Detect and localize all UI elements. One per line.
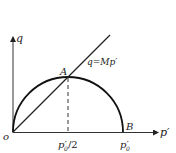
tick-half-label: p′ 0 /2 [58, 139, 78, 152]
point-a-label: A [59, 66, 67, 77]
origin-label: o [3, 131, 9, 142]
y-axis-label: q [16, 32, 23, 45]
svg-text:/2: /2 [68, 139, 78, 150]
line-label: q=Mp′ [87, 57, 117, 67]
yield-surface-diagram: q p′ o q=Mp′ A B p′ 0 /2 p′ 0 [0, 0, 176, 153]
point-b-label: B [125, 121, 133, 132]
x-axis-label: p′ [160, 126, 170, 139]
svg-text:0: 0 [126, 145, 130, 152]
tick-full-label: p′ 0 [120, 139, 130, 152]
